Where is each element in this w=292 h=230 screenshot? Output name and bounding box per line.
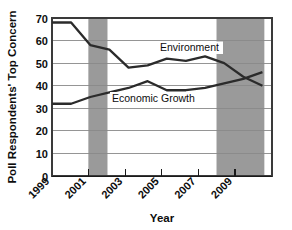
xtick-label-2001: 2001 [62, 175, 88, 201]
annotation-environment-group: Environment [158, 41, 223, 54]
xtick-label-2003: 2003 [99, 175, 125, 201]
ytick-label-40: 40 [36, 80, 48, 92]
y-axis-title: Poll Respondents' Top Concern [6, 10, 18, 183]
annotation-environment-label: Environment [160, 41, 219, 53]
ytick-label-20: 20 [36, 125, 48, 137]
ytick-label-70: 70 [36, 13, 48, 25]
shaded-region-recession-2008 [217, 18, 265, 176]
annotation-economic-growth-label: Economic Growth [112, 92, 195, 104]
chart-container: Environment Economic Growth 70 60 50 40 … [0, 0, 292, 230]
ytick-label-50: 50 [36, 58, 48, 70]
line-chart: Environment Economic Growth 70 60 50 40 … [0, 0, 292, 230]
x-axis-title: Year [150, 212, 175, 224]
ytick-label-60: 60 [36, 35, 48, 47]
x-axis-tick-labels: 1999 2001 2003 2005 2007 2009 [26, 175, 235, 201]
y-axis-tick-labels: 70 60 50 40 30 20 10 0 [36, 13, 48, 183]
ytick-label-10: 10 [36, 148, 48, 160]
annotation-economic-growth-group: Economic Growth [110, 92, 198, 105]
xtick-label-2005: 2005 [135, 175, 161, 201]
xtick-label-2007: 2007 [172, 175, 198, 201]
xtick-label-2009: 2009 [209, 175, 235, 201]
ytick-label-30: 30 [36, 103, 48, 115]
